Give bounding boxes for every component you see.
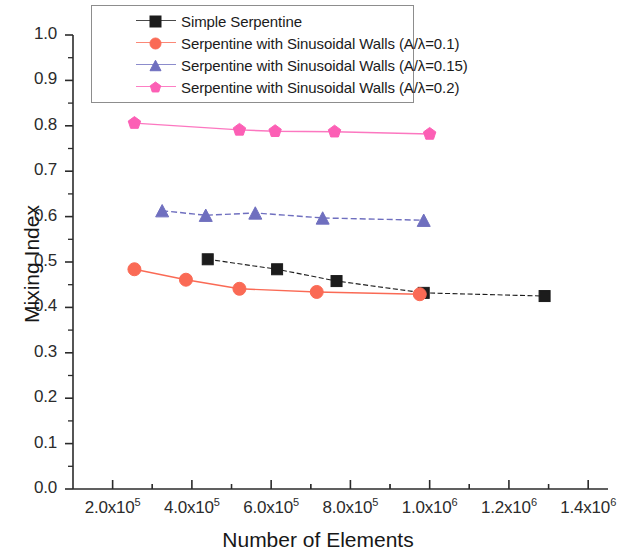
x-tick-label: 8.0x105 (305, 498, 395, 518)
legend-item-1[interactable]: Serpentine with Sinusoidal Walls (A/λ=0.… (92, 32, 413, 54)
data-point (249, 207, 262, 219)
x-tick-label: 2.0x105 (68, 498, 158, 518)
data-point (128, 263, 141, 276)
y-tick-label: 0.1 (5, 433, 57, 453)
legend-item-3[interactable]: Serpentine with Sinusoidal Walls (A/λ=0.… (92, 76, 413, 98)
data-point (328, 125, 340, 137)
y-tick-label: 0.9 (5, 69, 57, 89)
legend-marker-icon (136, 79, 176, 95)
data-point (128, 117, 140, 129)
legend-marker-icon (136, 35, 176, 51)
data-point (272, 264, 283, 275)
legend-label: Serpentine with Sinusoidal Walls (A/λ=0.… (181, 79, 459, 96)
legend-marker-icon (136, 13, 176, 29)
data-point (423, 127, 435, 139)
legend-marker-icon (136, 57, 176, 73)
x-tick-label: 4.0x105 (147, 498, 237, 518)
series-3 (128, 117, 436, 140)
series-0 (202, 254, 550, 302)
data-point (310, 285, 323, 298)
legend-label: Serpentine with Sinusoidal Walls (A/λ=0.… (181, 35, 459, 52)
y-tick-label: 1.0 (5, 24, 57, 44)
series-2 (156, 205, 431, 227)
data-point (179, 273, 192, 286)
legend-label: Simple Serpentine (181, 13, 302, 30)
data-point (331, 276, 342, 287)
legend-item-2[interactable]: Serpentine with Sinusoidal Walls (A/λ=0.… (92, 54, 413, 76)
data-point (539, 291, 550, 302)
data-point (233, 282, 246, 295)
x-tick-label: 1.4x106 (543, 498, 633, 518)
x-axis-title: Number of Elements (73, 528, 563, 552)
legend-label: Serpentine with Sinusoidal Walls (A/λ=0.… (181, 57, 468, 74)
y-axis-title: Mixing Index (20, 174, 44, 354)
y-tick-label: 0.0 (5, 478, 57, 498)
x-tick-label: 6.0x105 (226, 498, 316, 518)
data-point (413, 288, 426, 301)
y-tick-label: 0.2 (5, 387, 57, 407)
legend-item-0[interactable]: Simple Serpentine (92, 10, 413, 32)
axis-ticks (65, 35, 588, 489)
data-point (269, 125, 281, 137)
chart-legend: Simple SerpentineSerpentine with Sinusoi… (91, 5, 414, 103)
axis-lines (73, 35, 608, 489)
data-point (233, 123, 245, 135)
data-point (202, 254, 213, 265)
chart-figure: 0.00.10.20.30.40.50.60.70.80.91.0 2.0x10… (0, 0, 633, 557)
data-series-layer (128, 117, 550, 302)
x-tick-label: 1.2x106 (464, 498, 554, 518)
y-tick-label: 0.8 (5, 115, 57, 135)
x-tick-label: 1.0x106 (385, 498, 475, 518)
